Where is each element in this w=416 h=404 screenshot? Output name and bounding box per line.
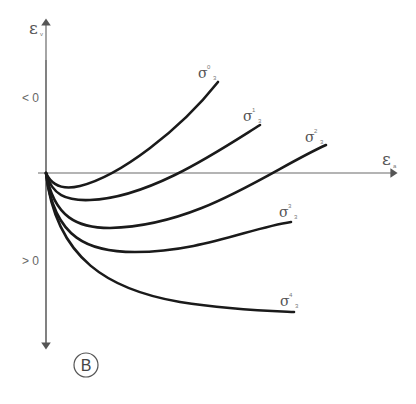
curve-label-sigma3-0: σ 0 3 (198, 64, 217, 81)
svg-text:3: 3 (288, 203, 292, 209)
curve-sigma3-0 (46, 82, 218, 187)
lower-region-label: > 0 (22, 254, 39, 268)
panel-label: B (81, 357, 92, 374)
svg-text:3: 3 (295, 303, 299, 309)
curve-label-sigma3-1: σ 1 3 (243, 107, 262, 124)
x-axis-symbol: ε (382, 149, 391, 169)
curve-label-sigma3-3: σ 3 3 (279, 203, 298, 220)
curve-label-sigma3-4: σ 4 3 (280, 292, 299, 309)
svg-text:0: 0 (207, 64, 211, 70)
diagram-canvas: ε v ε a < 0 > 0 σ 0 3 σ 1 3 σ 2 3 σ 3 3 … (0, 0, 416, 404)
y-axis-symbol: ε (29, 18, 38, 38)
svg-text:3: 3 (258, 118, 262, 124)
svg-text:3: 3 (320, 139, 324, 145)
curve-sigma3-1 (46, 125, 260, 200)
svg-text:2: 2 (314, 128, 318, 134)
x-axis-subscript: a (393, 163, 397, 169)
svg-text:3: 3 (294, 214, 298, 220)
svg-text:1: 1 (252, 107, 256, 113)
upper-region-label: < 0 (22, 91, 39, 105)
svg-text:4: 4 (289, 292, 293, 298)
curve-label-sigma3-2: σ 2 3 (305, 128, 324, 145)
y-axis-subscript: v (40, 31, 43, 37)
svg-text:3: 3 (213, 75, 217, 81)
